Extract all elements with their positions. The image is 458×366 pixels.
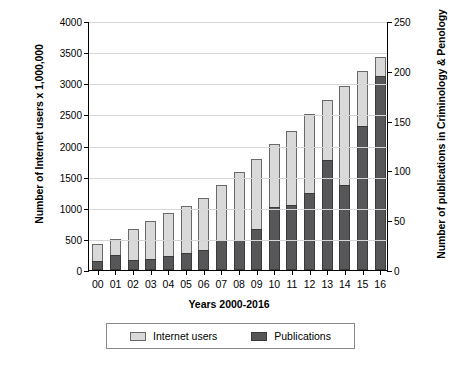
bar-segment-publications[interactable] xyxy=(181,253,192,270)
y-axis-right-tick-label: 50 xyxy=(394,216,434,227)
x-axis-tick-label: 15 xyxy=(357,278,369,290)
gridline xyxy=(89,209,387,210)
y-axis-left-tick-label: 1500 xyxy=(42,172,82,183)
bar-group[interactable] xyxy=(322,100,333,270)
y-axis-right-title: Number of publications in Criminology & … xyxy=(435,9,447,259)
y-axis-right-tick-label: 250 xyxy=(394,17,434,28)
legend-item-publications: Publications xyxy=(251,330,331,342)
bar-segment-publications[interactable] xyxy=(269,207,280,270)
y-axis-right-tick-label: 0 xyxy=(394,266,434,277)
gridline xyxy=(89,53,387,54)
bar-segment-publications[interactable] xyxy=(286,205,297,270)
x-axis-tick-label: 16 xyxy=(374,278,386,290)
x-axis-tick-label: 06 xyxy=(198,278,210,290)
bar-group[interactable] xyxy=(163,213,174,270)
x-axis-tick xyxy=(380,270,381,275)
bar-segment-publications[interactable] xyxy=(216,240,227,270)
bar-group[interactable] xyxy=(269,144,280,270)
x-axis-tick-label: 05 xyxy=(180,278,192,290)
bar-group[interactable] xyxy=(92,244,103,270)
y-axis-right-tick-label: 100 xyxy=(394,166,434,177)
x-axis-tick-label: 07 xyxy=(216,278,228,290)
bar-group[interactable] xyxy=(110,239,121,270)
gridline xyxy=(89,147,387,148)
y-axis-left-tick-label: 2500 xyxy=(42,110,82,121)
x-axis-tick-label: 11 xyxy=(286,278,297,290)
chart-container: Number of Internet users x 1,000,000 Num… xyxy=(0,0,458,366)
plot-area: 0500100015002000250030003500400005010015… xyxy=(88,22,388,271)
x-axis-tick-label: 08 xyxy=(233,278,245,290)
x-axis-tick-label: 03 xyxy=(145,278,157,290)
x-axis-tick-label: 10 xyxy=(268,278,280,290)
x-axis-tick xyxy=(151,270,152,275)
legend-label-internet-users: Internet users xyxy=(153,330,217,342)
x-axis-tick xyxy=(310,270,311,275)
bar-segment-publications[interactable] xyxy=(110,255,121,270)
y-axis-left-title: Number of Internet users x 1,000,000 xyxy=(33,9,45,259)
x-axis-tick-label: 12 xyxy=(304,278,316,290)
y-axis-left-tick xyxy=(84,22,89,23)
y-axis-left-tick-label: 500 xyxy=(42,234,82,245)
x-axis-tick xyxy=(186,270,187,275)
x-axis-tick-label: 02 xyxy=(127,278,139,290)
y-axis-right-tick-label: 150 xyxy=(394,116,434,127)
bar-group[interactable] xyxy=(286,131,297,270)
bar-group[interactable] xyxy=(304,114,315,270)
legend-label-publications: Publications xyxy=(274,330,331,342)
bar-group[interactable] xyxy=(181,206,192,270)
bar-segment-publications[interactable] xyxy=(128,260,139,270)
y-axis-left-tick-label: 0 xyxy=(42,266,82,277)
bar-segment-publications[interactable] xyxy=(234,240,245,270)
bar-group[interactable] xyxy=(375,57,386,270)
x-axis-tick xyxy=(257,270,258,275)
bar-segment-publications[interactable] xyxy=(198,250,209,270)
y-axis-right-tick xyxy=(387,221,392,222)
y-axis-left-tick xyxy=(84,209,89,210)
legend-swatch-publications xyxy=(251,332,267,341)
y-axis-left-tick xyxy=(84,271,89,272)
bar-segment-publications[interactable] xyxy=(339,185,350,270)
y-axis-right-tick xyxy=(387,171,392,172)
y-axis-left-tick xyxy=(84,84,89,85)
x-axis-tick-label: 14 xyxy=(339,278,351,290)
gridline xyxy=(89,22,387,23)
y-axis-left-tick xyxy=(84,115,89,116)
bar-group[interactable] xyxy=(251,159,262,270)
y-axis-right-tick xyxy=(387,122,392,123)
bar-segment-publications[interactable] xyxy=(163,256,174,270)
y-axis-left-tick-label: 1000 xyxy=(42,203,82,214)
bar-segment-publications[interactable] xyxy=(92,261,103,270)
y-axis-right-tick xyxy=(387,271,392,272)
x-axis-tick xyxy=(327,270,328,275)
bar-group[interactable] xyxy=(128,229,139,270)
x-axis-tick-label: 09 xyxy=(251,278,263,290)
y-axis-left-tick xyxy=(84,147,89,148)
y-axis-right-tick xyxy=(387,72,392,73)
gridline xyxy=(89,240,387,241)
x-axis-tick-label: 00 xyxy=(92,278,104,290)
bar-group[interactable] xyxy=(234,172,245,270)
gridline xyxy=(89,178,387,179)
y-axis-left-tick-label: 4000 xyxy=(42,17,82,28)
y-axis-left-tick xyxy=(84,53,89,54)
bar-segment-publications[interactable] xyxy=(145,259,156,270)
x-axis-tick xyxy=(168,270,169,275)
x-axis-tick xyxy=(363,270,364,275)
legend-item-internet-users: Internet users xyxy=(130,330,217,342)
x-axis-tick xyxy=(133,270,134,275)
y-axis-left-tick xyxy=(84,240,89,241)
gridline xyxy=(89,84,387,85)
x-axis-title: Years 2000-2016 xyxy=(0,298,458,310)
y-axis-right-tick xyxy=(387,22,392,23)
x-axis-tick xyxy=(98,270,99,275)
chart-legend: Internet users Publications xyxy=(106,323,355,349)
bar-group[interactable] xyxy=(145,221,156,270)
bar-segment-publications[interactable] xyxy=(304,193,315,270)
bar-segment-publications[interactable] xyxy=(251,229,262,270)
bar-group[interactable] xyxy=(216,185,227,270)
x-axis-tick-label: 01 xyxy=(110,278,122,290)
x-axis-tick xyxy=(239,270,240,275)
y-axis-left-tick xyxy=(84,178,89,179)
x-axis-tick xyxy=(274,270,275,275)
x-axis-tick xyxy=(345,270,346,275)
